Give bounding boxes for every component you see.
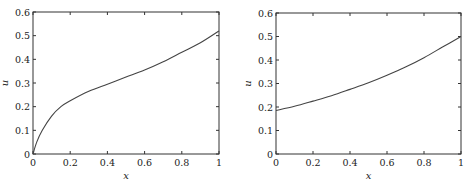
plot-1: 00.20.40.60.8100.10.20.30.40.50.6xu [0,7,222,182]
y-tick-label: 0 [267,149,273,160]
y-tick-label: 0.4 [258,55,273,66]
y-tick-label: 0.4 [15,54,30,65]
y-tick-label: 0.1 [15,125,30,136]
x-tick-label: 0 [30,157,36,168]
x-tick-label: 0.2 [63,157,78,168]
x-axis-label: x [123,170,129,181]
y-axis-label: u [242,80,253,86]
y-tick-label: 0.2 [258,102,273,113]
x-tick-label: 0.2 [305,157,320,168]
y-tick-label: 0.3 [15,78,30,89]
y-tick-label: 0.2 [15,101,30,112]
figure: 00.20.40.60.8100.10.20.30.40.50.6xu00.20… [0,0,470,190]
y-axis-label: u [0,80,10,86]
y-tick-label: 0.6 [15,7,30,18]
y-tick-label: 0.6 [258,8,273,19]
y-tick-label: 0.5 [258,31,273,42]
x-tick-label: 0.6 [379,157,394,168]
x-tick-label: 1 [216,157,222,168]
series-line [276,37,461,111]
y-tick-label: 0.1 [258,125,273,136]
x-tick-label: 0.4 [342,157,357,168]
series-line [33,31,219,154]
axes-frame [276,13,461,154]
y-tick-label: 0.5 [15,30,30,41]
axes-frame [33,12,219,154]
y-tick-label: 0 [24,149,30,160]
x-tick-label: 0.6 [137,157,152,168]
plot-2: 00.20.40.60.8100.10.20.30.40.50.6xu [242,8,464,182]
x-tick-label: 0 [273,157,279,168]
y-tick-label: 0.3 [258,78,273,89]
x-tick-label: 0.4 [100,157,115,168]
x-tick-label: 0.8 [174,157,189,168]
x-axis-label: x [366,170,372,181]
x-tick-label: 0.8 [416,157,431,168]
x-tick-label: 1 [458,157,464,168]
